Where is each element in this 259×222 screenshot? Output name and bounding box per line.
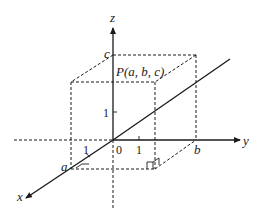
z-tick-label-1: 1	[103, 106, 109, 120]
point-p-label: P(a, b, c)	[115, 64, 164, 79]
diagram-canvas: z y x 0 1 1 1 c b a P(a, b, c)	[0, 0, 259, 222]
b-label: b	[194, 142, 201, 157]
coordinate-diagram: z y x 0 1 1 1 c b a P(a, b, c)	[0, 0, 259, 222]
y-tick-label-1: 1	[136, 143, 142, 157]
right-angle-mark-corner-side	[153, 158, 159, 165]
right-angle-mark-corner	[147, 162, 153, 169]
z-axis-label: z	[109, 10, 115, 25]
x-axis	[26, 140, 113, 198]
box-edge-bottom-right	[155, 140, 196, 169]
c-label: c	[104, 46, 110, 61]
x-axis-label: x	[16, 189, 23, 204]
origin-label: 0	[116, 143, 122, 157]
x-tick-label-1: 1	[83, 143, 89, 157]
a-label: a	[61, 159, 68, 174]
y-axis-label: y	[241, 133, 249, 148]
right-angle-mark-a	[76, 164, 89, 168]
